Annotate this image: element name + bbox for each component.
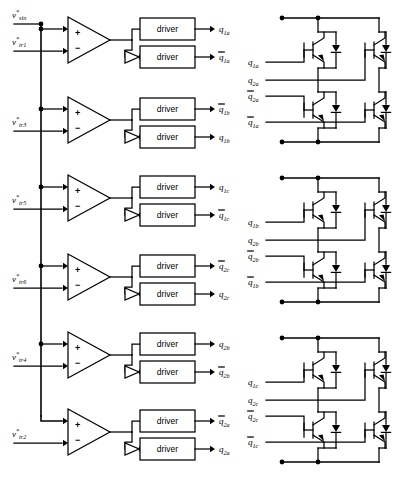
bridge-a-dc-plus-terminal [280,16,285,21]
label-modulating-signal: v*sin [12,8,26,21]
ch1-comparator [68,17,110,63]
bridge-c-dc-plus-terminal [280,336,285,341]
bridge-a-gate-wire-1 [266,50,365,80]
bridge-b-gate-label-2: q2b [248,251,259,263]
ch4-comparator-minus: − [75,280,80,290]
ch1-comparator-minus: − [75,43,80,53]
ch4-top-driver-input-wire [132,266,140,277]
ch3-bottom-output-label-text: q1c [219,210,230,222]
bridge-a-gate-label-0-text: q1a [248,57,259,69]
ch2-plus-arrow [63,106,68,112]
bridge-b-igbt-top-left [304,192,324,228]
ch1-minus-arrow [63,48,68,54]
bridge-b-diode-top-right [381,205,390,212]
bridge-a-diode-top-left [331,45,340,52]
ch3-minus-arrow [63,206,68,212]
ch1-not-gate [125,51,139,63]
ch5-top-driver-input-wire [132,344,140,355]
bridge-c-gate-wire-0 [266,370,304,382]
ch4-minus-arrow [63,285,68,291]
ch1-bottom-output-arrow [210,54,215,60]
bridge-b-diode-top-right-triangle [382,205,390,212]
bridge-b-gate-label-0-text: q1b [248,217,259,229]
ch3-not-gate [125,209,139,221]
bridge-a-igbt-bottom-right-collector [374,92,385,105]
bridge-b-gate-wire-2 [266,256,304,270]
bridge-b-gate-label-0: q1b [248,217,259,229]
bridge-b-gate-label-3-text: q1b [248,277,259,289]
ch6-plus-input-wire [41,416,62,421]
ch6-top-output-label: q2a [219,416,230,428]
circuit-diagram: v*sinv*tr1+−driverq1adriverq1av*tr3+−dri… [0,0,393,480]
bridge-a-igbt-top-left [304,32,324,68]
bridge-c-diode-bottom-left-triangle [332,425,340,432]
ch4-bottom-driver-label: driver [157,289,178,299]
bridge-a-igbt-top-left-collector [313,32,324,45]
bridge-a-gate-label-3: q1a [248,117,259,129]
bridge-a-gate-label-0: q1a [248,57,259,69]
ch5-bottom-output-label-text: q2b [219,367,230,379]
ch3-top-output-label: q1c [219,182,230,194]
bridge-b-igbt-top-right [365,192,385,228]
bridge-b-igbt-bottom-right [365,252,385,288]
ch4-plus-arrow [63,263,68,269]
label-carrier-tr4: v*tr4 [12,350,26,363]
ch1-top-driver-label: driver [157,24,178,34]
bridge-a-gate-label-1-text: q2a [248,75,259,87]
ch6-bottom-output-arrow [210,446,215,452]
ch1-comparator-plus: + [75,28,80,38]
label-carrier-tr4-text: v*tr4 [12,350,26,363]
ch4-bottom-output-arrow [210,291,215,297]
bridge-b-igbt-top-right-collector [374,192,385,205]
bridge-c-diode-top-left [331,365,340,372]
bridge-a-gate-label-3-text: q1a [248,117,259,129]
ch4-top-output-arrow [210,263,215,269]
bridge-c-igbt-top-left-collector [313,352,324,365]
bridge-a-igbt-bottom-right [365,92,385,128]
bridge-b-diode-bottom-left [331,265,340,272]
ch5-bottom-driver-label: driver [157,367,178,377]
bridge-b-gate-label-2-text: q2b [248,251,259,263]
ch5-top-output-label-text: q2b [219,339,230,351]
ch6-top-driver-label: driver [157,416,178,426]
bridge-c-gate-label-0: q1c [248,377,259,389]
ch6-not-gate [125,443,139,455]
label-carrier-tr1: v*tr1 [12,35,26,48]
ch5-bottom-output-label: q2b [219,367,230,379]
ch4-top-driver-label: driver [157,261,178,271]
bridge-a-gate-label-2-text: q2a [248,91,259,103]
ch2-top-output-arrow [210,106,215,112]
bridge-b-gate-label-1-text: q2b [248,235,259,247]
bridge-b-igbt-top-left-collector [313,192,324,205]
ch6-comparator [68,409,110,455]
ch5-top-output-arrow [210,341,215,347]
label-carrier-tr6: v*tr6 [12,272,27,285]
label-carrier-tr1-text: v*tr1 [12,35,26,48]
ch3-comparator-minus: − [75,201,80,211]
label-carrier-tr6-text: v*tr6 [12,272,27,285]
ch1-top-output-label-text: q1a [219,24,230,36]
label-carrier-tr2: v*tr2 [12,427,26,440]
ch1-bottom-output-label: q1a [219,52,230,64]
bridge-c-igbt-top-right-collector [374,352,385,365]
ch3-top-output-label-text: q1c [219,182,230,194]
ch5-top-driver-label: driver [157,339,178,349]
ch2-bottom-output-label: q1b [219,132,230,144]
bridge-c-gate-label-3: q1c [248,437,259,449]
ch5-comparator-plus: + [75,343,80,353]
ch1-bottom-driver-label: driver [157,52,178,62]
bridge-a-gate-wire-0 [266,50,304,62]
ch2-minus-arrow [63,128,68,134]
ch6-bottom-output-label: q2a [219,444,230,456]
bridge-b-gate-wire-0 [266,210,304,222]
ch4-comparator [68,254,110,300]
ch4-not-gate [125,288,139,300]
ch2-comparator [68,97,110,143]
bridge-c-gate-label-1-text: q2c [248,395,259,407]
ch3-plus-arrow [63,184,68,190]
ch4-bottom-output-label: q2c [219,289,230,301]
ch5-plus-arrow [63,341,68,347]
ch6-comparator-minus: − [75,435,80,445]
bridge-b-igbt-bottom-right-collector [374,252,385,265]
ch5-minus-arrow [63,363,68,369]
